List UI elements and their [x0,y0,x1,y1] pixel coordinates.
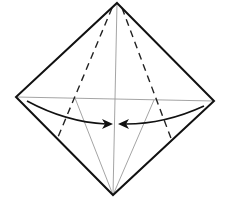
origami-diagram [0,0,226,209]
diagram-canvas [0,0,226,209]
bottom-left-crease [75,98,113,195]
right-valley-fold-line [122,8,172,141]
bottom-right-crease [113,100,154,195]
